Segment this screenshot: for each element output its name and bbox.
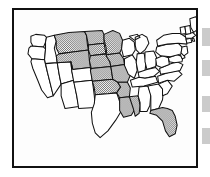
state-wisconsin bbox=[122, 38, 136, 57]
state-minnesota bbox=[104, 30, 123, 54]
state-rhode-island bbox=[192, 38, 195, 41]
states-layer bbox=[28, 17, 196, 138]
scan-mark-2 bbox=[202, 60, 210, 76]
state-texas bbox=[91, 93, 121, 138]
figure-root bbox=[0, 0, 210, 177]
map-frame bbox=[12, 8, 198, 168]
state-florida bbox=[150, 108, 177, 137]
state-ohio bbox=[145, 51, 157, 70]
state-new-hampshire bbox=[185, 26, 191, 35]
state-kansas bbox=[90, 67, 112, 82]
state-oregon bbox=[28, 46, 46, 60]
us-choropleth-map bbox=[14, 10, 196, 166]
state-new-jersey bbox=[181, 46, 188, 56]
scan-mark-3 bbox=[202, 96, 210, 112]
state-connecticut bbox=[186, 38, 192, 43]
scan-mark-4 bbox=[202, 128, 210, 144]
state-arkansas bbox=[117, 82, 131, 98]
scan-mark-1 bbox=[202, 28, 210, 46]
map-plate bbox=[14, 10, 196, 166]
state-new-york bbox=[157, 33, 187, 46]
state-west-virginia bbox=[156, 56, 170, 68]
state-washington bbox=[31, 34, 47, 47]
